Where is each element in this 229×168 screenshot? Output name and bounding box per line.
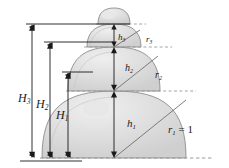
label-h3: h3 [118,33,125,43]
figure-canvas: H3 H2 H1 h3 h2 h1 r3 r2 r1 = 1 [0,0,229,168]
body-gloss [83,100,109,116]
label-H2: H2 [36,98,48,112]
diagram-svg [0,0,229,168]
label-r3: r3 [146,35,152,45]
label-H1: H1 [56,109,68,123]
label-r2: r2 [155,70,162,81]
label-h1: h1 [127,118,136,131]
label-H3: H3 [18,92,30,106]
label-r1: r1 = 1 [168,124,193,137]
top-gloss [101,11,115,19]
label-h2: h2 [125,63,133,74]
